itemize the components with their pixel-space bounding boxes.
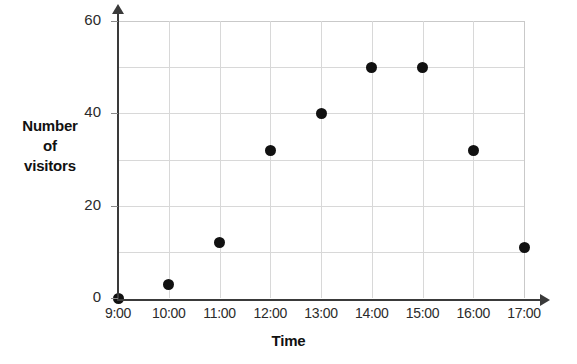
y-axis-title-line-3: visitors <box>4 156 96 176</box>
gridline-vertical <box>270 21 271 298</box>
plot-area <box>118 21 524 298</box>
gridline-vertical <box>169 21 170 298</box>
y-axis-tick <box>111 206 118 207</box>
gridline-vertical <box>473 21 474 298</box>
y-axis-tick <box>111 113 118 114</box>
data-point <box>214 237 225 248</box>
data-point <box>316 108 327 119</box>
y-axis-tick-label: 0 <box>55 288 101 305</box>
data-point <box>366 62 377 73</box>
x-axis-title: Time <box>0 332 577 349</box>
gridline-vertical <box>321 21 322 298</box>
data-point <box>417 62 428 73</box>
y-axis-tick-label: 40 <box>55 103 101 120</box>
data-point <box>519 242 530 253</box>
x-axis-line <box>117 299 541 301</box>
gridline-vertical <box>220 21 221 298</box>
x-axis-tick-label: 17:00 <box>489 305 559 321</box>
y-axis-arrow-icon <box>112 4 124 14</box>
y-axis-tick-label: 60 <box>55 11 101 28</box>
y-axis-tick <box>111 21 118 22</box>
y-axis-title-line-2: of <box>4 136 96 156</box>
data-point <box>163 279 174 290</box>
y-axis-line <box>117 12 119 301</box>
y-axis-tick <box>111 298 118 299</box>
data-point <box>265 145 276 156</box>
chart-figure: Number of visitors 0204060 9:0010:0011:0… <box>0 0 577 364</box>
data-point <box>468 145 479 156</box>
gridline-vertical <box>524 21 525 298</box>
y-axis-tick-label: 20 <box>55 196 101 213</box>
y-axis-title: Number of visitors <box>4 116 96 176</box>
